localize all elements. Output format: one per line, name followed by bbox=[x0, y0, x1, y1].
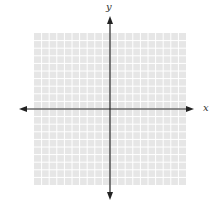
x-axis-left-arrow-icon bbox=[19, 106, 27, 112]
x-axis-right-arrow-icon bbox=[186, 106, 194, 112]
y-axis-up-arrow-icon bbox=[107, 16, 113, 24]
grid-plane bbox=[0, 0, 214, 213]
x-axis-label: x bbox=[203, 103, 209, 113]
y-axis-label: y bbox=[106, 2, 112, 12]
y-axis-down-arrow-icon bbox=[107, 192, 113, 200]
